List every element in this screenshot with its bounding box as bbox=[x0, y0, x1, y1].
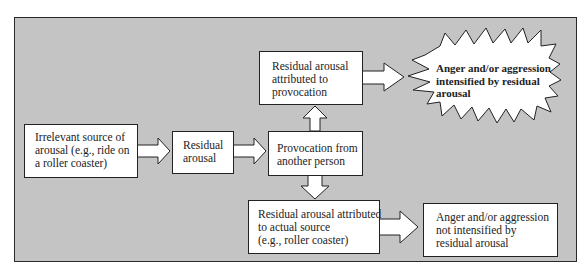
arrow-irrelevant-to-residual bbox=[137, 138, 170, 164]
node-attributed-provocation: Residual arousal attributed to provocati… bbox=[259, 51, 363, 105]
node-provocation: Provocation from another person bbox=[268, 131, 363, 176]
node-attributed-actual: Residual arousal attributed to actual so… bbox=[248, 200, 380, 254]
arrow-provocation-down bbox=[301, 175, 329, 199]
arrow-to-not-intensified bbox=[379, 211, 418, 243]
node-not-intensified: Anger and/or aggression not intensified … bbox=[423, 203, 558, 257]
node-residual-arousal: Residual arousal bbox=[172, 131, 234, 174]
node-irrelevant-source: Irrelevant source of arousal (e.g., ride… bbox=[24, 124, 138, 178]
arrow-residual-to-provocation bbox=[233, 138, 266, 164]
arrow-to-intensified bbox=[362, 63, 404, 91]
node-intensified: Anger and/or aggression intensified by r… bbox=[436, 62, 556, 106]
arrow-provocation-up bbox=[303, 106, 327, 131]
